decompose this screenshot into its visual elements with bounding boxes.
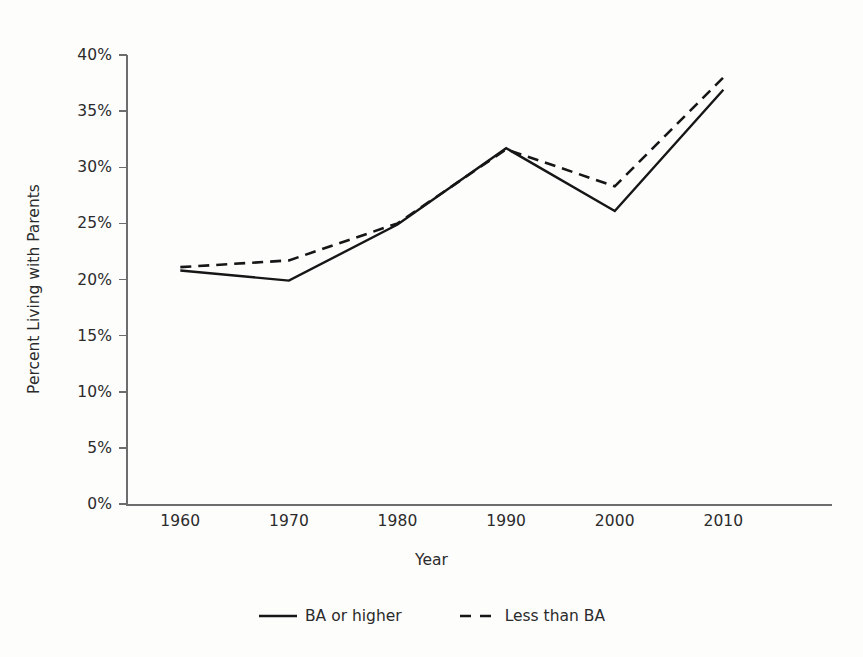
y-tick-label: 5% — [54, 439, 112, 457]
x-tick-label: 2000 — [595, 512, 635, 530]
x-tick-label: 1960 — [160, 512, 200, 530]
plot-area — [126, 55, 832, 504]
x-tick-label: 1980 — [378, 512, 418, 530]
y-tick-label: 35% — [54, 102, 112, 120]
y-tick-label: 20% — [54, 271, 112, 289]
legend-dashed-line-icon — [458, 609, 498, 623]
legend-label-ba-or-higher: BA or higher — [305, 607, 402, 625]
x-axis-line — [126, 504, 832, 506]
y-tick-label: 15% — [54, 327, 112, 345]
series-less-than-ba — [180, 77, 723, 267]
legend-label-less-than-ba: Less than BA — [505, 607, 605, 625]
legend-item-ba-or-higher: BA or higher — [258, 607, 402, 625]
y-tick-label: 25% — [54, 214, 112, 232]
series-canvas — [126, 55, 832, 504]
chart-figure: Percent Living with Parents 0%5%10%15%20… — [0, 0, 863, 657]
legend-item-less-than-ba: Less than BA — [458, 607, 605, 625]
y-tick-label: 30% — [54, 158, 112, 176]
y-axis-title: Percent Living with Parents — [25, 159, 43, 419]
chart-legend: BA or higher Less than BA — [0, 607, 863, 625]
x-axis-title: Year — [0, 551, 863, 569]
x-tick-label: 1990 — [486, 512, 526, 530]
y-tick-label: 10% — [54, 383, 112, 401]
legend-solid-line-icon — [258, 609, 298, 623]
y-tick-label: 0% — [54, 495, 112, 513]
y-tick-label: 40% — [54, 46, 112, 64]
x-tick-label: 1970 — [269, 512, 309, 530]
x-tick-label: 2010 — [703, 512, 743, 530]
